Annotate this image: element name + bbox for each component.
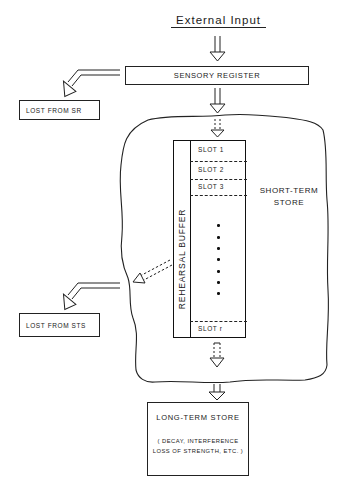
long-term-store-box: LONG-TERM STORE ( DECAY, INTERFERENCE LO… <box>147 402 249 476</box>
slot-3: SLOT 3 <box>190 183 245 190</box>
arrow-input-to-sr-icon <box>210 36 225 61</box>
ellipsis-dot <box>217 281 220 284</box>
short-term-store-label-line2: STORE <box>254 197 324 209</box>
arrow-buffer-out-icon <box>210 343 224 367</box>
short-term-store-label: SHORT-TERM STORE <box>254 185 324 209</box>
slot-r: SLOT r <box>190 325 245 332</box>
lost-from-sr-box: LOST FROM SR <box>19 100 100 120</box>
ellipsis-dot <box>217 258 220 261</box>
arrow-sr-to-sts-icon <box>210 88 225 113</box>
rehearsal-buffer-label: REHEARSAL BUFFER <box>177 209 187 309</box>
slot-divider <box>190 321 247 322</box>
ellipsis-dot <box>217 224 220 227</box>
arrow-sts-to-lost-icon <box>61 283 120 311</box>
slot-1: SLOT 1 <box>190 146 245 153</box>
long-term-store-note-line1: ( DECAY, INTERFERENCE <box>153 436 244 446</box>
slot-divider <box>190 195 247 196</box>
arrow-sr-to-lost-icon <box>61 70 120 98</box>
arrow-into-buffer-icon <box>211 119 224 137</box>
long-term-store-note-line2: LOSS OF STRENGTH, ETC. ) <box>153 446 244 456</box>
lost-from-sts-box: LOST FROM STS <box>19 313 100 337</box>
ellipsis-dot <box>217 247 220 250</box>
rehearsal-buffer: REHEARSAL BUFFER SLOT 1 SLOT 2 SLOT 3 SL… <box>173 140 246 338</box>
slot-divider <box>190 179 247 180</box>
ellipsis-dot <box>217 236 220 239</box>
short-term-store-label-line1: SHORT-TERM <box>254 185 324 197</box>
long-term-store-note: ( DECAY, INTERFERENCE LOSS OF STRENGTH, … <box>153 436 244 456</box>
ellipsis-dot <box>217 292 220 295</box>
sensory-register-box: SENSORY REGISTER <box>125 66 309 85</box>
slot-divider <box>190 161 247 162</box>
arrow-sts-to-lts-icon <box>209 384 225 400</box>
rehearsal-buffer-label-column: REHEARSAL BUFFER <box>174 141 191 337</box>
ellipsis-dot <box>217 270 220 273</box>
slot-2: SLOT 2 <box>190 166 245 173</box>
arrow-buffer-to-edge-icon <box>133 260 172 283</box>
external-input-label: External Input <box>171 14 266 28</box>
long-term-store-title: LONG-TERM STORE <box>156 413 239 422</box>
